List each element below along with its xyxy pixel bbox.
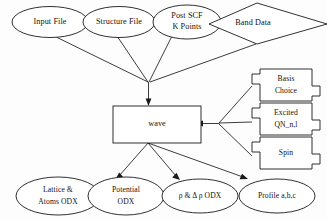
edge-wave-to-potential-odx: [119, 143, 148, 176]
excited-qn-label-line2: QN_n,l: [274, 120, 297, 129]
spin-label: Spin: [279, 148, 293, 157]
profile-abc-label: Profile a,b,c: [258, 191, 297, 200]
potential-odx-label-line2: ODX: [118, 197, 135, 206]
rho-odx-label: ρ & Δ ρ ODX: [179, 191, 222, 200]
band-data-label: Band Data: [235, 18, 271, 27]
node-input-file[interactable]: Input File: [12, 7, 88, 38]
node-potential-odx[interactable]: Potential ODX: [88, 177, 164, 215]
edge-band-data-to-wave: [150, 44, 256, 82]
edge-spin-to-wave: [219, 124, 252, 156]
edges-inputs-to-wave: [50, 34, 256, 106]
edges-options-to-wave: [195, 86, 252, 156]
node-basis-choice[interactable]: Basis Choice: [252, 69, 320, 101]
node-lattice-atoms-odx[interactable]: Lattice & Atoms ODX: [16, 177, 100, 215]
potential-odx-label-line1: Potential: [112, 185, 140, 194]
node-profile-abc[interactable]: Profile a,b,c: [239, 179, 315, 213]
node-band-data[interactable]: Band Data: [209, 3, 327, 44]
flow-diagram: Input File Structure File Post SCF K Poi…: [0, 0, 327, 221]
node-wave[interactable]: wave: [113, 106, 201, 143]
edge-excited-qn-to-wave: [219, 122, 252, 123]
edge-basis-choice-to-wave: [219, 86, 252, 123]
diagram-canvas: Input File Structure File Post SCF K Poi…: [0, 0, 327, 221]
arrowhead-into-wave-top: [146, 99, 152, 107]
lattice-atoms-odx-label-line2: Atoms ODX: [38, 197, 78, 206]
basis-choice-label-line2: Choice: [275, 86, 298, 95]
arrowhead-into-profile-abc: [240, 174, 248, 180]
basis-choice-label-line1: Basis: [278, 74, 295, 83]
node-structure-file[interactable]: Structure File: [83, 7, 155, 38]
input-file-label: Input File: [33, 17, 66, 26]
lattice-atoms-odx-label-line1: Lattice &: [43, 185, 73, 194]
node-spin[interactable]: Spin: [252, 137, 320, 169]
structure-file-label: Structure File: [96, 17, 142, 26]
edges-wave-to-outputs: [115, 143, 248, 180]
arrowhead-into-rho-odx: [172, 173, 180, 180]
edge-input-file-to-wave: [50, 34, 148, 82]
post-scf-label-line1: Post SCF: [171, 11, 203, 20]
node-rho-odx[interactable]: ρ & Δ ρ ODX: [162, 179, 238, 213]
node-excited-qn[interactable]: Excited QN_n,l: [252, 103, 320, 135]
post-scf-label-line2: K Points: [172, 22, 201, 31]
edge-structure-file-to-wave: [117, 36, 148, 82]
wave-label: wave: [148, 119, 166, 128]
excited-qn-label-line1: Excited: [274, 108, 298, 117]
node-post-scf-k-points[interactable]: Post SCF K Points: [153, 5, 221, 39]
